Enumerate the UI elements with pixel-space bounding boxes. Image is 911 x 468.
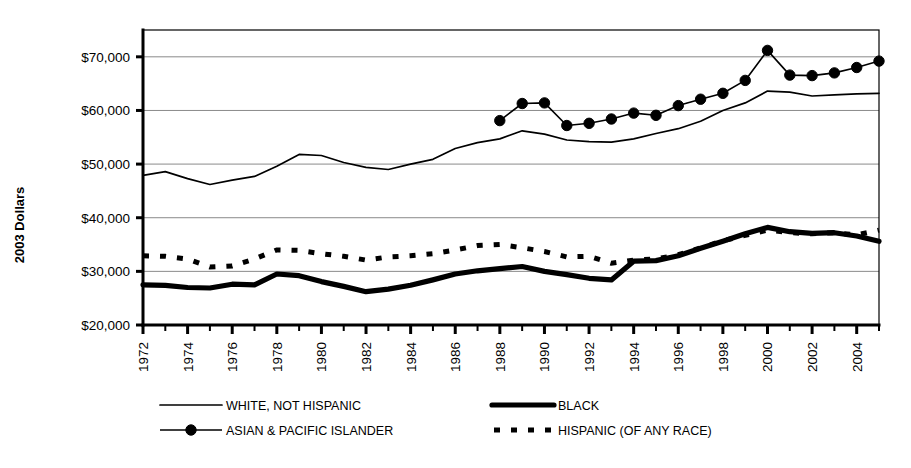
y-axis-title-label: 2003 Dollars bbox=[12, 187, 27, 264]
y-axis-tick-label: $20,000 bbox=[81, 318, 130, 333]
x-axis-tick-label: 1992 bbox=[582, 342, 597, 372]
chart-background bbox=[0, 0, 911, 468]
income-by-race-line-chart: 2003 Dollars $70,000$60,000$50,000$40,00… bbox=[0, 0, 911, 468]
legend-label: BLACK bbox=[558, 399, 600, 413]
chart-figure: 2003 Dollars $70,000$60,000$50,000$40,00… bbox=[0, 0, 911, 468]
legend-label: ASIAN & PACIFIC ISLANDER bbox=[226, 424, 393, 438]
y-axis-tick-label: $30,000 bbox=[81, 264, 130, 279]
data-point-marker bbox=[651, 110, 661, 120]
data-point-marker bbox=[584, 118, 594, 128]
x-axis-tick-label: 2004 bbox=[850, 342, 865, 373]
x-axis-tick-label: 2002 bbox=[805, 342, 820, 372]
legend-marker-asian-pacific-islander bbox=[186, 425, 196, 435]
data-point-marker bbox=[785, 70, 795, 80]
x-axis-tick-label: 1986 bbox=[448, 342, 463, 372]
y-axis-title: 2003 Dollars bbox=[12, 187, 27, 264]
x-axis-tick-label: 1972 bbox=[136, 342, 151, 372]
data-point-marker bbox=[762, 45, 772, 55]
legend-label: HISPANIC (OF ANY RACE) bbox=[558, 424, 712, 438]
data-point-marker bbox=[539, 98, 549, 108]
x-axis-tick-label: 1978 bbox=[270, 342, 285, 372]
data-point-marker bbox=[562, 120, 572, 130]
x-axis-tick-label: 1994 bbox=[627, 342, 642, 373]
data-point-marker bbox=[495, 115, 505, 125]
x-axis-tick-label: 1990 bbox=[537, 342, 552, 372]
x-axis-tick-label: 1976 bbox=[225, 342, 240, 372]
data-point-marker bbox=[695, 94, 705, 104]
x-axis-tick-label: 1988 bbox=[493, 342, 508, 372]
x-axis-tick-label: 1998 bbox=[716, 342, 731, 372]
x-axis-tick-label: 1984 bbox=[404, 342, 419, 373]
data-point-marker bbox=[829, 68, 839, 78]
data-point-marker bbox=[807, 70, 817, 80]
data-point-marker bbox=[606, 114, 616, 124]
data-point-marker bbox=[673, 100, 683, 110]
y-axis-tick-label: $40,000 bbox=[81, 211, 130, 226]
data-point-marker bbox=[740, 75, 750, 85]
data-point-marker bbox=[718, 88, 728, 98]
y-axis-tick-label: $50,000 bbox=[81, 157, 130, 172]
y-axis-tick-label: $70,000 bbox=[81, 50, 130, 65]
data-point-marker bbox=[517, 98, 527, 108]
x-axis-tick-label: 2000 bbox=[760, 342, 775, 372]
y-axis-tick-label: $60,000 bbox=[81, 103, 130, 118]
x-axis-tick-label: 1996 bbox=[671, 342, 686, 372]
data-point-marker bbox=[874, 56, 884, 66]
x-axis-tick-label: 1980 bbox=[314, 342, 329, 372]
legend-label: WHITE, NOT HISPANIC bbox=[226, 399, 361, 413]
data-point-marker bbox=[852, 62, 862, 72]
x-axis-tick-label: 1974 bbox=[181, 342, 196, 373]
data-point-marker bbox=[629, 108, 639, 118]
x-axis-tick-label: 1982 bbox=[359, 342, 374, 372]
